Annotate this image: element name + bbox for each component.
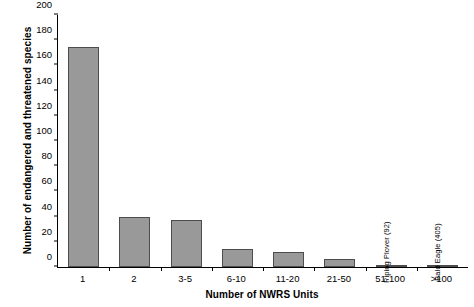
bar-slot — [212, 15, 263, 267]
x-axis-tick-mark — [366, 267, 367, 271]
y-axis-tick-label: 0 — [8, 251, 58, 262]
x-axis-tick-label: 6-10 — [211, 273, 262, 284]
bar-slot — [314, 15, 365, 267]
x-axis-tick-label: 2 — [108, 273, 159, 284]
y-axis-tick-label: 120 — [8, 99, 58, 110]
x-axis-tick-mark — [314, 267, 315, 271]
bar: Bald Eagle (405) — [427, 265, 458, 267]
y-axis-tick-label: 100 — [8, 125, 58, 136]
y-axis-tick-label: 60 — [8, 175, 58, 186]
plot-area: 020406080100120140160180200 Piping Plove… — [57, 15, 468, 268]
bar: Piping Plover (92) — [376, 265, 407, 267]
x-axis-title: Number of NWRS Units — [57, 289, 467, 300]
y-axis-tick-label: 40 — [8, 200, 58, 211]
y-axis-tick-label: 160 — [8, 49, 58, 60]
bar-slot — [109, 15, 160, 267]
x-axis-tick-label: 11-20 — [262, 273, 313, 284]
y-axis-tick-label: 140 — [8, 74, 58, 85]
x-axis-tick-label: 1 — [57, 273, 108, 284]
x-axis-tick-mark — [417, 267, 418, 271]
bar-slot: Piping Plover (92) — [366, 15, 417, 267]
bar-slot — [161, 15, 212, 267]
x-axis-tick-mark — [212, 267, 213, 271]
x-axis-tick-label: >100 — [416, 273, 467, 284]
bar — [273, 252, 304, 267]
bar — [171, 220, 202, 267]
bar — [222, 249, 253, 267]
y-axis-tick-label: 200 — [8, 0, 58, 10]
bar — [68, 47, 99, 268]
y-axis-tick-label: 80 — [8, 150, 58, 161]
x-axis-tick-label: 3-5 — [160, 273, 211, 284]
bar-series: Piping Plover (92)Bald Eagle (405) — [58, 15, 468, 267]
bar-slot — [263, 15, 314, 267]
x-axis-tick-mark — [161, 267, 162, 271]
x-axis-tick-label: 21-50 — [313, 273, 364, 284]
bar-slot — [58, 15, 109, 267]
bar-chart: Number of endangered and threatened spec… — [0, 0, 474, 307]
x-axis-tick-mark — [109, 267, 110, 271]
y-axis-tick-label: 180 — [8, 24, 58, 35]
x-axis-tick-labels: 123-56-1011-2021-5051-100>100 — [57, 273, 467, 284]
bar — [324, 259, 355, 267]
y-axis-tick-label: 20 — [8, 225, 58, 236]
x-axis-tick-label: 51-100 — [365, 273, 416, 284]
bar — [119, 217, 150, 267]
bar-slot: Bald Eagle (405) — [417, 15, 468, 267]
x-axis-tick-mark — [263, 267, 264, 271]
